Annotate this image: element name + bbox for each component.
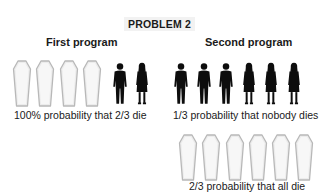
man-icon [217,60,235,108]
woman-icon [285,60,303,108]
coffin-icon [271,134,291,182]
coffin-icon [248,134,268,182]
second-program-heading: Second program [205,36,292,48]
coffin-icon [178,134,198,182]
man-icon [172,60,190,108]
second-program-deaths-figures [178,134,318,182]
coffin-icon [201,134,221,182]
woman-icon [262,60,280,108]
coffin-icon [82,60,102,108]
coffin-icon [225,134,245,182]
man-icon [111,60,129,108]
second-program-die-caption: 2/3 probability that all die [189,180,305,192]
second-program-survive-caption: 1/3 probability that nobody dies [173,109,318,121]
coffin-icon [12,60,32,108]
first-program-caption: 100% probability that 2/3 die [14,109,147,121]
second-program-survivors-figures [172,60,307,108]
coffin-icon [59,60,79,108]
first-program-heading: First program [46,36,118,48]
woman-icon [133,60,151,108]
man-icon [195,60,213,108]
coffin-icon [35,60,55,108]
coffin-icon [294,134,314,182]
problem-title: PROBLEM 2 [0,18,319,30]
first-program-figures [12,60,155,108]
woman-icon [240,60,258,108]
